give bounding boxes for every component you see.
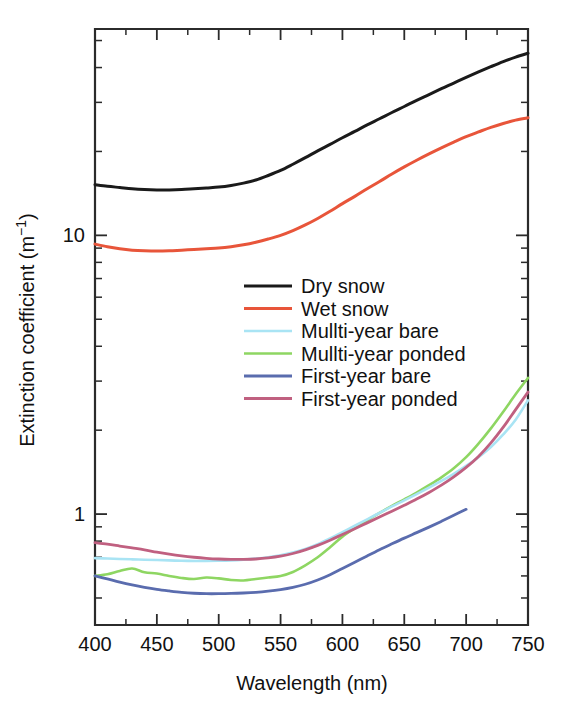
x-tick-label: 600 <box>326 633 359 655</box>
curve-wet-snow <box>95 118 528 251</box>
y-tick-label: 10 <box>63 224 85 246</box>
x-tick-label: 500 <box>202 633 235 655</box>
x-tick-label: 450 <box>140 633 173 655</box>
y-tick-label: 1 <box>74 503 85 525</box>
chart-canvas: 400450500550600650700750 110 Dry snowWet… <box>0 0 566 705</box>
curve-mullti-year-bare <box>95 400 528 561</box>
chart-legend: Dry snowWet snowMullti-year bareMullti-y… <box>244 275 466 410</box>
x-axis-tick-labels: 400450500550600650700750 <box>78 633 544 655</box>
extinction-coefficient-figure: 400450500550600650700750 110 Dry snowWet… <box>0 0 566 705</box>
x-tick-label: 650 <box>388 633 421 655</box>
x-tick-label: 400 <box>78 633 111 655</box>
legend-label-first-year-bare: First-year bare <box>301 365 431 387</box>
curve-first-year-ponded <box>95 392 528 559</box>
legend-label-mullti-year-ponded: Mullti-year ponded <box>301 343 466 365</box>
curve-dry-snow <box>95 53 528 190</box>
y-axis-title: Extinction coefficient (m−1) <box>13 213 38 446</box>
x-tick-label: 750 <box>511 633 544 655</box>
legend-label-dry-snow: Dry snow <box>301 275 385 297</box>
x-tick-label: 700 <box>449 633 482 655</box>
y-axis-tick-labels: 110 <box>63 224 85 525</box>
x-axis-title: Wavelength (nm) <box>236 672 388 694</box>
legend-label-first-year-ponded: First-year ponded <box>301 388 458 410</box>
legend-label-wet-snow: Wet snow <box>301 298 389 320</box>
x-tick-label: 550 <box>264 633 297 655</box>
legend-label-mullti-year-bare: Mullti-year bare <box>301 320 439 342</box>
